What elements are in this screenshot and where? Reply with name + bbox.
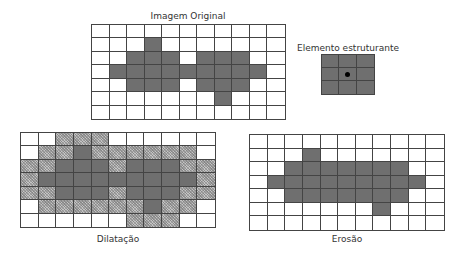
grid-cell — [321, 203, 339, 217]
grid-cell — [373, 149, 391, 163]
grid-cell — [356, 176, 374, 190]
grid-cell — [162, 92, 180, 105]
grid-cell — [180, 79, 198, 92]
grid-cell — [109, 173, 127, 186]
grid-cell — [197, 133, 215, 146]
grid-cell — [373, 203, 391, 217]
title-structuring-element: Elemento estruturante — [297, 43, 399, 53]
grid-cell — [409, 149, 427, 163]
grid-cell — [426, 149, 444, 163]
grid-cell — [109, 214, 127, 227]
grid-cell — [215, 106, 233, 119]
grid-cell — [197, 106, 215, 119]
grid-cell — [357, 55, 374, 68]
grid-cell — [92, 214, 110, 227]
grid-cell — [232, 52, 250, 65]
grid-cell — [127, 214, 145, 227]
grid-cell — [250, 92, 268, 105]
grid-cell — [145, 106, 163, 119]
grid-cell — [197, 173, 215, 186]
grid-cell — [426, 176, 444, 190]
grid-cell — [162, 65, 180, 78]
grid-cell — [322, 68, 339, 81]
grid-cell — [250, 38, 268, 51]
grid-cell — [92, 25, 110, 38]
grid-cell — [109, 160, 127, 173]
grid-cell — [268, 176, 286, 190]
grid-cell — [409, 189, 427, 203]
grid-cell — [162, 38, 180, 51]
grid-cell — [250, 189, 268, 203]
grid-cell — [162, 187, 180, 200]
grid-cell — [197, 79, 215, 92]
grid-cell — [322, 55, 339, 68]
grid-cell — [21, 146, 39, 159]
original-image-grid — [91, 24, 286, 120]
grid-cell — [21, 160, 39, 173]
grid-cell — [303, 189, 321, 203]
grid-cell — [215, 52, 233, 65]
title-dilation: Dilatação — [97, 234, 139, 244]
grid-cell — [21, 214, 39, 227]
grid-cell — [303, 149, 321, 163]
grid-cell — [268, 189, 286, 203]
grid-cell — [250, 176, 268, 190]
grid-cell — [197, 92, 215, 105]
grid-cell — [338, 176, 356, 190]
grid-cell — [39, 200, 57, 213]
grid-cell — [285, 189, 303, 203]
grid-cell — [39, 133, 57, 146]
grid-cell — [180, 38, 198, 51]
grid-cell — [145, 65, 163, 78]
grid-cell — [215, 79, 233, 92]
grid-cell — [268, 216, 286, 230]
grid-cell — [109, 200, 127, 213]
grid-cell — [250, 135, 268, 149]
grid-cell — [409, 216, 427, 230]
grid-cell — [285, 176, 303, 190]
grid-cell — [74, 187, 92, 200]
grid-cell — [250, 65, 268, 78]
grid-cell — [357, 81, 374, 94]
grid-cell — [391, 216, 409, 230]
grid-cell — [162, 214, 180, 227]
grid-cell — [109, 146, 127, 159]
grid-cell — [197, 52, 215, 65]
grid-cell — [109, 187, 127, 200]
grid-cell — [21, 187, 39, 200]
grid-cell — [92, 106, 110, 119]
grid-cell — [426, 162, 444, 176]
grid-cell — [268, 149, 286, 163]
grid-cell — [180, 160, 198, 173]
grid-cell — [357, 68, 374, 81]
grid-cell — [391, 149, 409, 163]
grid-cell — [39, 187, 57, 200]
grid-cell — [180, 214, 198, 227]
grid-cell — [303, 203, 321, 217]
grid-cell — [56, 173, 74, 186]
grid-cell — [127, 79, 145, 92]
grid-cell — [39, 160, 57, 173]
grid-cell — [197, 146, 215, 159]
grid-cell — [92, 65, 110, 78]
grid-cell — [162, 106, 180, 119]
grid-cell — [180, 65, 198, 78]
grid-cell — [338, 162, 356, 176]
grid-cell — [180, 200, 198, 213]
grid-cell — [321, 189, 339, 203]
grid-cell — [250, 79, 268, 92]
grid-cell — [338, 135, 356, 149]
grid-cell — [426, 135, 444, 149]
grid-cell — [356, 189, 374, 203]
grid-cell — [197, 38, 215, 51]
grid-cell — [321, 135, 339, 149]
grid-cell — [127, 92, 145, 105]
grid-cell — [321, 176, 339, 190]
grid-cell — [127, 146, 145, 159]
grid-cell — [250, 52, 268, 65]
grid-cell — [232, 92, 250, 105]
grid-cell — [56, 200, 74, 213]
grid-cell — [338, 189, 356, 203]
grid-cell — [197, 187, 215, 200]
grid-cell — [74, 173, 92, 186]
